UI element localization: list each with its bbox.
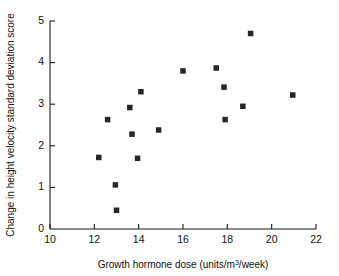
data-point-marker	[135, 156, 141, 162]
data-point-marker	[221, 84, 227, 90]
data-point-marker	[129, 131, 135, 137]
x-axis-title: Growth hormone dose (units/m3/week)	[98, 259, 269, 270]
x-tick-label: 10	[44, 233, 56, 245]
y-tick-label: 4	[38, 55, 44, 67]
y-tick-label: 2	[38, 139, 44, 151]
data-point-marker	[222, 117, 228, 123]
data-point-marker	[127, 105, 133, 111]
data-point-marker	[138, 89, 144, 95]
data-point-marker	[290, 92, 296, 98]
data-point-marker	[96, 155, 102, 161]
y-tick-label: 1	[38, 180, 44, 192]
x-tick-label: 12	[88, 233, 100, 245]
data-point-marker	[105, 117, 111, 123]
chart-figure: 10121416182022 012345 Growth hormone dos…	[0, 0, 339, 276]
scatter-plot: 10121416182022 012345 Growth hormone dos…	[0, 0, 339, 276]
data-point-marker	[114, 208, 120, 214]
data-point-marker	[214, 65, 220, 71]
y-tick-label: 0	[38, 222, 44, 234]
x-tick-label: 22	[310, 233, 322, 245]
data-point-marker	[113, 182, 119, 188]
data-point-marker	[180, 68, 186, 74]
x-tick-label: 20	[266, 233, 278, 245]
y-axis-title: Change in height velocity standard devia…	[5, 13, 16, 237]
data-point-marker	[240, 104, 246, 110]
x-tick-label: 14	[133, 233, 145, 245]
data-point-marker	[156, 127, 162, 133]
x-tick-label: 18	[221, 233, 233, 245]
x-tick-label: 16	[177, 233, 189, 245]
y-tick-label: 5	[38, 14, 44, 26]
y-tick-label: 3	[38, 97, 44, 109]
data-point-marker	[248, 31, 254, 37]
